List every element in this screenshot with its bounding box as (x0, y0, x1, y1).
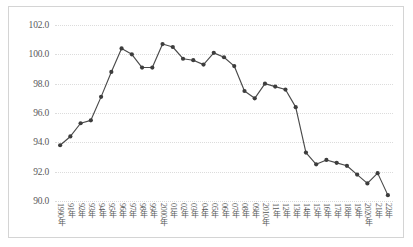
data-point-marker (68, 134, 72, 138)
x-axis-tick-label: 98年 (138, 203, 146, 218)
x-axis-tick-label: 05年 (210, 203, 218, 218)
x-axis-tick-label: 01年 (169, 203, 177, 218)
data-point-marker (253, 96, 257, 100)
data-point-marker (335, 161, 339, 165)
data-point-marker (386, 193, 390, 197)
gridline (55, 201, 393, 202)
data-point-marker (345, 164, 349, 168)
data-point-marker (201, 63, 205, 67)
x-axis-tick-label: 17年 (333, 203, 341, 218)
x-axis-tick-label: 07年 (230, 203, 238, 218)
data-point-marker (355, 173, 359, 177)
data-point-marker (99, 95, 103, 99)
chart-frame: 102.0100.098.096.094.092.090.0 1990年91年9… (8, 6, 404, 238)
x-axis-tick-label: 2010年 (261, 203, 269, 226)
data-point-marker (109, 70, 113, 74)
series-polyline (60, 44, 388, 195)
data-point-marker (294, 105, 298, 109)
x-axis-tick-label: 15年 (312, 203, 320, 218)
x-axis-tick-label: 97年 (128, 203, 136, 218)
data-point-marker (58, 143, 62, 147)
y-axis-tick-label: 100.0 (29, 49, 49, 59)
x-axis-tick-label: 94年 (97, 203, 105, 218)
data-point-marker (212, 51, 216, 55)
data-point-marker (181, 57, 185, 61)
x-axis-tick-label: 19年 (353, 203, 361, 218)
y-axis-tick-label: 102.0 (29, 20, 49, 30)
y-axis-tick-label: 98.0 (33, 79, 49, 89)
data-point-marker (283, 87, 287, 91)
x-axis-tick-label: 18年 (343, 203, 351, 218)
data-point-marker (273, 85, 277, 89)
data-point-marker (376, 171, 380, 175)
x-axis-tick-label: 21年 (374, 203, 382, 218)
x-axis-labels: 1990年91年92年93年94年95年96年97年98年99年2000年01年… (55, 203, 393, 247)
data-point-marker (232, 64, 236, 68)
y-axis-tick-label: 96.0 (33, 108, 49, 118)
data-point-marker (89, 118, 93, 122)
data-point-marker (242, 89, 246, 93)
y-axis-tick-label: 90.0 (33, 196, 49, 206)
data-point-marker (222, 55, 226, 59)
x-axis-tick-label: 2020年 (363, 203, 371, 226)
data-point-marker (324, 158, 328, 162)
x-axis-tick-label: 16年 (322, 203, 330, 218)
data-point-marker (119, 46, 123, 50)
data-point-marker (365, 181, 369, 185)
x-axis-tick-label: 08年 (240, 203, 248, 218)
x-axis-tick-label: 96年 (118, 203, 126, 218)
data-point-marker (191, 58, 195, 62)
x-axis-tick-label: 92年 (77, 203, 85, 218)
data-point-marker (140, 65, 144, 69)
data-point-marker (304, 151, 308, 155)
x-axis-tick-label: 04年 (200, 203, 208, 218)
x-axis-tick-label: 1990年 (56, 203, 64, 226)
x-axis-tick-label: 02年 (179, 203, 187, 218)
x-axis-tick-label: 09年 (251, 203, 259, 218)
data-point-marker (314, 162, 318, 166)
data-point-marker (130, 52, 134, 56)
chart-plot-area (55, 25, 393, 201)
data-point-marker (79, 121, 83, 125)
y-axis-labels: 102.0100.098.096.094.092.090.0 (9, 25, 53, 201)
x-axis-tick-label: 11年 (271, 203, 279, 218)
data-point-marker (263, 82, 267, 86)
x-axis-tick-label: 03年 (189, 203, 197, 218)
x-axis-tick-label: 99年 (148, 203, 156, 218)
line-series (55, 25, 393, 201)
x-axis-tick-label: 13年 (292, 203, 300, 218)
x-axis-tick-label: 2000年 (159, 203, 167, 226)
x-axis-tick-label: 93年 (87, 203, 95, 218)
x-axis-tick-label: 14年 (302, 203, 310, 218)
x-axis-tick-label: 22年 (384, 203, 392, 218)
x-axis-tick-label: 95年 (107, 203, 115, 218)
data-point-marker (160, 42, 164, 46)
chart-plot-wrapper: 102.0100.098.096.094.092.090.0 1990年91年9… (9, 7, 405, 239)
x-axis-tick-label: 12年 (281, 203, 289, 218)
data-point-marker (171, 45, 175, 49)
data-point-marker (150, 65, 154, 69)
y-axis-tick-label: 94.0 (33, 137, 49, 147)
x-axis-tick-label: 06年 (220, 203, 228, 218)
x-axis-tick-label: 91年 (66, 203, 74, 218)
y-axis-tick-label: 92.0 (33, 167, 49, 177)
